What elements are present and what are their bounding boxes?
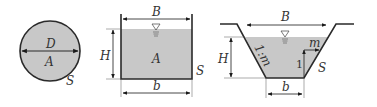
top-width-label: B <box>280 10 290 24</box>
area-label: A <box>44 55 54 69</box>
trapezoidal-section: B H 1:m m 1 S b <box>217 10 354 98</box>
diameter-label: D <box>45 37 56 51</box>
depth-label: H <box>99 49 111 63</box>
circular-section: D A S <box>20 21 80 88</box>
bottom-width-label: b <box>282 80 290 94</box>
perimeter-label: S <box>66 74 74 88</box>
top-width-label: B <box>151 5 161 19</box>
slope-vertical-label: 1 <box>296 58 303 71</box>
area-label: A <box>151 52 161 66</box>
perimeter-label: S <box>196 64 204 78</box>
slope-horizontal-label: m <box>309 36 320 50</box>
perimeter-label: S <box>318 61 326 75</box>
bottom-width-label: b <box>153 79 161 93</box>
cross-section-diagram: D A S B H A S b B <box>0 0 377 107</box>
depth-label: H <box>217 52 229 66</box>
rectangular-section: B H A S b <box>99 5 204 97</box>
